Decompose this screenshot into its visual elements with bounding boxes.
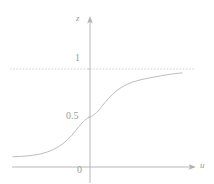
y-tick-label-0.5: 0.5: [66, 111, 79, 121]
origin-tick-label-0: 0: [77, 165, 82, 175]
y-tick-label-1: 1: [75, 53, 80, 63]
sigmoid-plot-figure: z u 1 0.5 0: [0, 0, 214, 184]
x-axis-label: u: [200, 161, 205, 170]
plot-canvas: [0, 0, 214, 184]
sigmoid-curve: [13, 73, 182, 157]
y-axis-label: z: [76, 14, 80, 23]
